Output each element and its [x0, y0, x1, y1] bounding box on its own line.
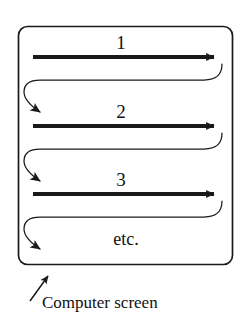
computer-screen-caption: Computer screen	[42, 294, 158, 311]
scan-line-label-3: 3	[101, 170, 141, 189]
diagram-canvas: 1 2 3 etc. Computer screen	[0, 0, 249, 319]
scan-line-label-2: 2	[101, 102, 141, 121]
scan-line-label-1: 1	[101, 33, 141, 52]
etcetera-label: etc.	[86, 230, 166, 248]
